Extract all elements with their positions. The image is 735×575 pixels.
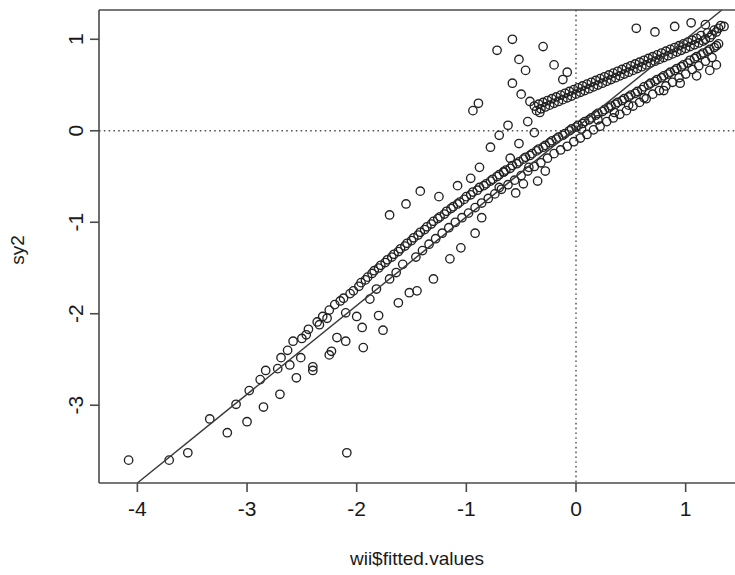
y-tick-label: 0 xyxy=(64,125,87,137)
x-tick-label: -3 xyxy=(238,497,257,520)
chart-canvas: -4-3-2-101 10-1-2-3 wii$fitted.values sy… xyxy=(0,0,735,575)
y-tick-label: -1 xyxy=(64,213,87,232)
y-axis-title: sy2 xyxy=(7,235,28,265)
x-tick-label: -2 xyxy=(347,497,366,520)
y-tick-label: -3 xyxy=(64,396,87,415)
x-tick-label: 0 xyxy=(570,497,582,520)
figure-background xyxy=(0,0,735,575)
y-tick-label: 1 xyxy=(64,33,87,45)
x-tick-label: 1 xyxy=(680,497,692,520)
x-axis-title: wii$fitted.values xyxy=(349,548,484,569)
x-tick-label: -1 xyxy=(457,497,476,520)
scatter-plot-figure: -4-3-2-101 10-1-2-3 wii$fitted.values sy… xyxy=(0,0,735,575)
y-tick-label: -2 xyxy=(64,304,87,323)
x-tick-label: -4 xyxy=(128,497,147,520)
